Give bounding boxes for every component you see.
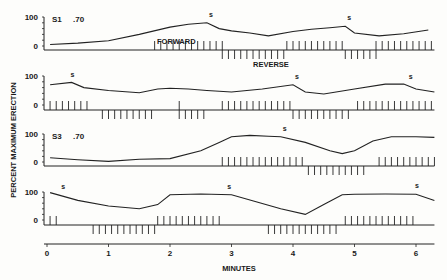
x-tick-label: 4 — [291, 249, 296, 258]
x-axis-title: MINUTES — [222, 264, 256, 273]
panel3-value: .70 — [73, 132, 85, 141]
response-curve — [50, 135, 434, 161]
x-tick-label: 1 — [106, 249, 111, 258]
stimulus-marker: s — [347, 14, 351, 21]
stimulus-marker: s — [295, 73, 299, 80]
panel1-value: .70 — [73, 15, 85, 24]
reverse-label: REVERSE — [253, 60, 289, 69]
x-tick-label: 2 — [168, 249, 173, 258]
x-tick-label: 6 — [414, 249, 419, 258]
y-tick-label-0: 0 — [34, 216, 39, 225]
x-tick-label: 3 — [229, 249, 234, 258]
y-tick-label-0: 0 — [34, 158, 39, 167]
stimulus-marker: s — [71, 71, 75, 78]
panel3-id: S3 — [52, 132, 62, 141]
stimulus-marker: s — [283, 125, 287, 132]
y-tick-label-100: 100 — [25, 13, 39, 22]
response-curve — [50, 23, 428, 45]
response-curve — [50, 193, 434, 215]
y-tick-label-0: 0 — [34, 101, 39, 110]
response-curve — [50, 82, 434, 94]
y-tick-label-0: 0 — [34, 42, 39, 51]
y-tick-label-100: 100 — [25, 72, 39, 81]
stimulus-marker: s — [409, 73, 413, 80]
x-tick-label: 0 — [45, 249, 50, 258]
y-axis-title: PERCENT MAXIMUM ERECTION — [9, 82, 18, 197]
erection-chart: 1000ss1000sss1000s1000sssS1.70S3.70FORWA… — [0, 0, 447, 280]
forward-label: FORWARD — [157, 37, 196, 46]
y-tick-label-100: 100 — [25, 130, 39, 139]
stimulus-marker: s — [61, 183, 65, 190]
stimulus-marker: s — [415, 182, 419, 189]
x-tick-label: 5 — [352, 249, 357, 258]
stimulus-marker: s — [209, 11, 213, 18]
panel1-id: S1 — [52, 15, 62, 24]
stimulus-marker: s — [227, 183, 231, 190]
y-tick-label-100: 100 — [25, 188, 39, 197]
